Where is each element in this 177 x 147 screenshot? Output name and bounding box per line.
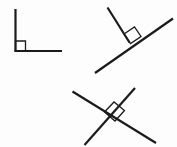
geometry-diagram <box>0 0 177 147</box>
figure-canvas-container <box>0 0 177 147</box>
canvas-background <box>0 0 177 147</box>
